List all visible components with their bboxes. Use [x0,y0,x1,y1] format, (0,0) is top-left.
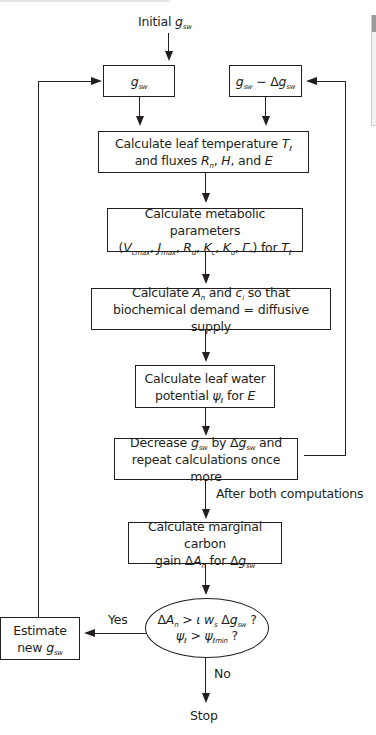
after-both-label: After both computations [216,486,363,502]
node-an-ci-line2: biochemical demand = diffusive supply [92,301,330,335]
node-leaf-water-potential: Calculate leaf water potential ψℓ for E [135,365,275,408]
no-label: No [214,666,231,682]
arrow-line [205,564,206,586]
arrow-down-icon [202,352,210,362]
node-gsw-minus-delta-label: gsw − Δgsw [236,73,296,90]
node-gsw: gsw [103,65,175,97]
node-metabolic-parameters: Calculate metabolic parameters (Vcmax, J… [107,208,303,252]
node-estimate-line1: Estimate [13,622,67,639]
node-gsw-label: gsw [131,73,148,90]
start-label: Initial gsw [138,14,192,30]
no-branch-line [205,658,206,694]
node-an-ci-line1: Calculate An and ci so that [132,284,290,301]
arrow-line [205,173,206,194]
node-estimate-line2: new gsw [17,639,63,656]
arrow-down-icon [202,274,210,284]
node-leaf-temperature-line1: Calculate leaf temperature Tℓ [115,135,292,152]
decision-line2: ψℓ > ψℓmin ? [176,628,238,644]
node-gsw-minus-delta: gsw − Δgsw [229,65,302,97]
yes-branch-line [94,633,146,634]
arrow-down-icon [202,193,210,203]
top-edge-shade [0,0,170,2]
arrow-down-icon [262,116,270,126]
loop-line-left [38,81,39,617]
node-water-line1: Calculate leaf water [144,370,265,387]
loop-line-right [345,81,346,456]
node-leaf-temperature-line2: and fluxes Rn, H, and E [135,152,273,169]
arrow-down-icon [136,116,144,126]
node-leaf-temperature: Calculate leaf temperature Tℓ and fluxes… [98,131,309,173]
arrow-down-icon [202,585,210,595]
arrow-line [205,252,206,275]
node-decrease-gsw: Decrease gsw by Δgsw and repeat calculat… [114,438,298,480]
node-decision: ΔAn > ι ws Δgsw ? ψℓ > ψℓmin ? [145,598,269,658]
loop-line-right [304,455,346,456]
scrollbar[interactable] [371,15,376,126]
node-marginal-line1: Calculate marginal carbon [129,518,281,552]
node-metabolic-line1: Calculate metabolic parameters [108,205,302,239]
arrow-left-icon [306,77,317,85]
scrollbar-thumb[interactable] [372,15,376,32]
start-var-sub: sw [183,23,192,31]
start-label-text: Initial [138,14,175,29]
node-water-line2: potential ψℓ for E [155,387,255,404]
node-marginal-carbon-gain: Calculate marginal carbon gain ΔAn for Δ… [128,522,282,564]
node-estimate-new-gsw: Estimate new gsw [0,617,80,660]
arrow-right-icon [91,77,102,85]
arrow-line [265,97,266,117]
arrow-down-icon [165,51,173,61]
arrow-line [168,33,169,51]
yes-label: Yes [108,612,128,628]
arrow-line [139,97,140,117]
start-var: g [175,14,183,29]
arrow-down-icon [202,693,210,703]
stop-label: Stop [190,708,218,724]
arrow-left-icon [84,629,95,637]
arrow-line [205,408,206,427]
decision-line1: ΔAn > ι ws Δgsw ? [157,612,256,628]
node-an-ci: Calculate An and ci so that biochemical … [91,288,331,330]
node-decrease-line1: Decrease gsw by Δgsw and [130,434,282,451]
loop-line-right [316,81,346,82]
loop-line-left [38,81,92,82]
arrow-line [205,330,206,353]
arrow-line [205,480,206,510]
